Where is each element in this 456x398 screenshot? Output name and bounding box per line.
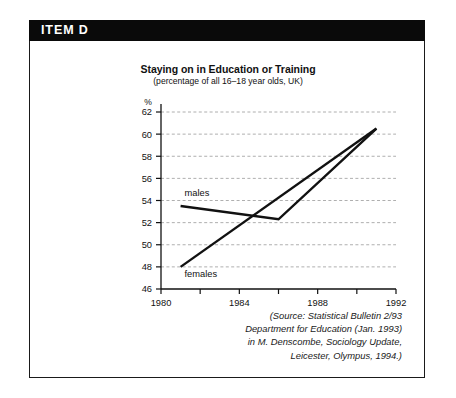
series-label-males: males: [185, 188, 210, 198]
y-axis-ticks-group: [156, 112, 161, 289]
page-root: ITEM D Staying on in Education or Traini…: [0, 0, 456, 398]
y-axis-tick-label: 56: [142, 174, 152, 184]
y-axis-tick-label: 62: [142, 107, 152, 117]
source-line-1: (Source: Statistical Bulletin 2/93: [102, 309, 402, 322]
y-axis-tick-label: 60: [142, 130, 152, 140]
x-axis-tick-label: 1984: [229, 298, 250, 308]
y-axis-tick-label: 58: [142, 152, 152, 162]
series-label-females: females: [185, 269, 218, 279]
y-axis-unit-label: %: [144, 97, 152, 107]
y-axis-tick-label: 50: [142, 240, 152, 250]
y-axis-tick-labels-group: 464850525456586062: [142, 107, 152, 294]
item-box: ITEM D Staying on in Education or Traini…: [29, 20, 425, 378]
y-axis-tick-label: 46: [142, 284, 152, 294]
x-axis-tick-label: 1980: [151, 298, 172, 308]
series-annotations-group: malesfemales: [185, 188, 218, 279]
source-citation: (Source: Statistical Bulletin 2/93 Depar…: [102, 309, 402, 362]
x-axis-tick-label: 1988: [307, 298, 328, 308]
y-axis-tick-label: 52: [142, 218, 152, 228]
x-axis-tick-labels-group: 1980198419881992: [151, 298, 407, 308]
source-line-2: Department for Education (Jan. 1993): [102, 322, 402, 335]
x-axis-ticks-group: [161, 289, 396, 294]
data-series-group: [181, 129, 377, 267]
y-axis-tick-label: 54: [142, 196, 152, 206]
series-line-females: [181, 129, 377, 267]
source-line-4: Leicester, Olympus, 1994.): [102, 349, 402, 362]
x-axis-tick-label: 1992: [386, 298, 407, 308]
y-axis-tick-label: 48: [142, 262, 152, 272]
series-line-males: [181, 129, 377, 220]
source-line-3: in M. Denscombe, Sociology Update,: [102, 335, 402, 348]
